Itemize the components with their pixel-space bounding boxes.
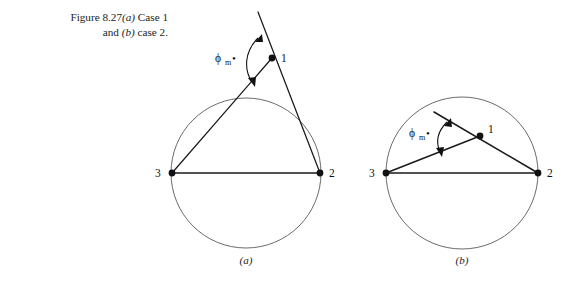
- panel-a-angle-subscript: m: [225, 58, 232, 67]
- panel-b-angle-marker-dot: •: [426, 127, 430, 139]
- panel-a-line-3-1: [172, 58, 272, 173]
- panel-b-node-2-label: 2: [547, 167, 553, 179]
- panel-b-line-3-1: [386, 136, 480, 173]
- panel-b-node-1-label: 1: [488, 123, 494, 135]
- panel-a-angle-marker-dot: •: [232, 52, 236, 64]
- figure-diagram-svg: 1 2 3 ϕ m • (a): [0, 0, 571, 281]
- panel-b-group: 1 2 3 ϕ m • (b): [369, 97, 553, 267]
- panel-b-subcaption: (b): [456, 254, 469, 267]
- panel-b-arc-arrowhead-lower: [436, 147, 444, 157]
- panel-b-node-1-dot: [477, 133, 484, 140]
- panel-a-node-3-label: 3: [155, 167, 161, 179]
- panel-a-node-2-label: 2: [329, 167, 335, 179]
- panel-b-node-2-dot: [535, 170, 542, 177]
- panel-a-node-1-dot: [269, 55, 276, 62]
- figure-container: Figure 8.27(a) Case 1 and (b) case 2. 1: [0, 0, 571, 281]
- panel-a-node-2-dot: [317, 170, 324, 177]
- panel-a-angle-symbol: ϕ: [215, 52, 221, 65]
- panel-a-group: 1 2 3 ϕ m • (a): [155, 12, 335, 267]
- panel-a-arc-arrowhead-upper: [255, 34, 263, 42]
- panel-a-line-2-1-extended: [258, 12, 320, 173]
- panel-b-angle-subscript: m: [419, 133, 426, 142]
- panel-b-node-3-dot: [383, 170, 390, 177]
- panel-a-node-1-label: 1: [281, 52, 287, 64]
- panel-a-node-3-dot: [169, 170, 176, 177]
- panel-a-arc-arrowhead-lower: [248, 77, 256, 87]
- panel-b-angle-symbol: ϕ: [409, 127, 415, 140]
- panel-b-node-3-label: 3: [369, 167, 375, 179]
- panel-a-subcaption: (a): [240, 254, 253, 267]
